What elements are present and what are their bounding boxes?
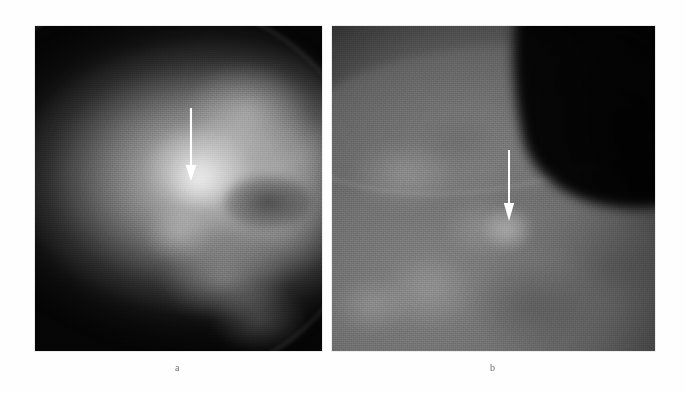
mammogram-panel-a	[35, 26, 322, 351]
figure-sheet: a b	[0, 0, 686, 393]
panel-a-caption: a	[175, 363, 180, 373]
panel-b-arrow-icon	[501, 124, 517, 224]
panel-a-arrow-icon	[183, 82, 199, 182]
mammogram-panel-b	[332, 26, 655, 351]
panel-a-film-grain	[35, 26, 322, 351]
panel-b-film-grain	[332, 26, 655, 351]
panel-b-caption: b	[490, 363, 495, 373]
